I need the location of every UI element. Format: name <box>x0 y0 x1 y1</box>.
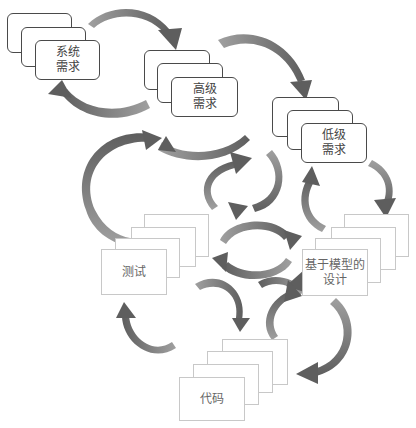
node-low-level-requirements[interactable]: 低级 需求 <box>301 123 367 163</box>
label-line: 需求 <box>322 143 346 158</box>
node-label: 测试 <box>102 250 166 294</box>
arrow-code-to-test <box>116 302 176 354</box>
label-line: 低级 <box>322 128 346 143</box>
arrow-loop-upper <box>204 150 283 212</box>
diagram-canvas: 系统 需求 高级 需求 低级 需求 测试 <box>0 0 416 428</box>
label-line: 需求 <box>56 60 80 75</box>
arrow-system-to-high <box>88 9 182 50</box>
arrow-test-to-code <box>195 279 250 332</box>
label-line: 需求 <box>193 97 217 112</box>
arrow-mbd-to-low <box>301 166 326 232</box>
arrow-low-to-mbd <box>368 160 396 218</box>
label-line: 基于模型的 <box>305 258 365 273</box>
arrow-mbd-to-code <box>296 298 352 384</box>
node-system-requirements[interactable]: 系统 需求 <box>35 40 100 80</box>
arrow-loop-middle <box>212 202 302 279</box>
node-label: 高级 需求 <box>172 78 237 116</box>
arrow-high-to-system <box>48 80 150 118</box>
node-label: 低级 需求 <box>302 124 366 162</box>
label-line: 高级 <box>193 82 217 97</box>
node-test[interactable]: 测试 <box>101 249 167 295</box>
label-line: 代码 <box>200 392 224 407</box>
node-high-level-requirements[interactable]: 高级 需求 <box>171 77 238 117</box>
node-code[interactable]: 代码 <box>179 377 245 421</box>
label-line: 设计 <box>305 273 365 288</box>
node-model-based-design[interactable]: 基于模型的 设计 <box>302 249 368 296</box>
node-label: 基于模型的 设计 <box>303 250 367 295</box>
label-line: 系统 <box>56 45 80 60</box>
node-label: 系统 需求 <box>36 41 99 79</box>
node-label: 代码 <box>180 378 244 420</box>
label-line: 测试 <box>122 265 146 280</box>
